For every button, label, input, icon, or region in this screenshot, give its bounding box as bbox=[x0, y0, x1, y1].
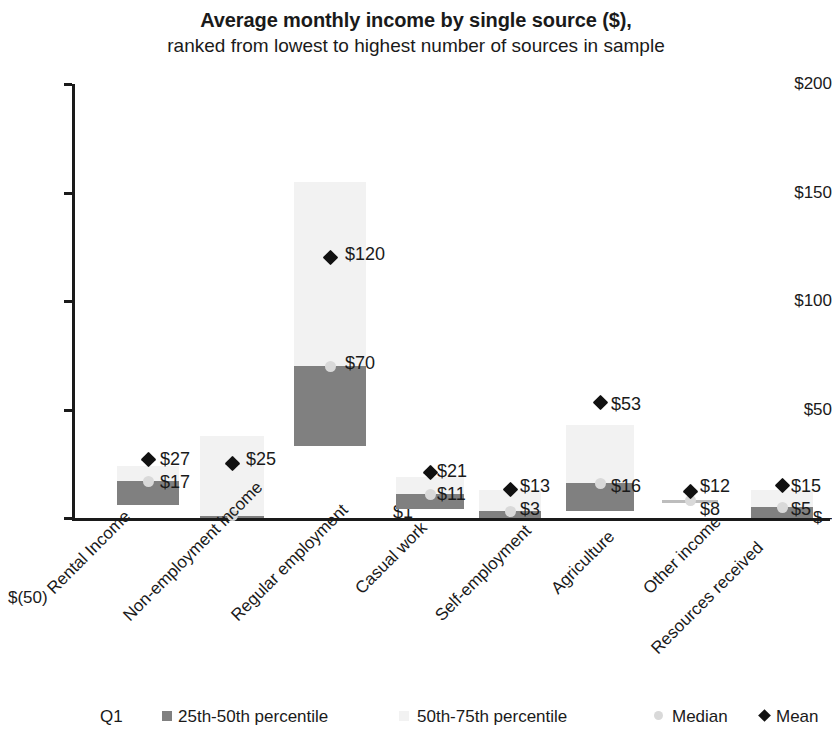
y-axis-tick bbox=[64, 192, 72, 195]
chart-root: Average monthly income by single source … bbox=[0, 0, 832, 731]
mean-value-label: $120 bbox=[345, 245, 385, 263]
legend-label-25th-50th-percentile: 25th-50th percentile bbox=[178, 708, 328, 725]
y-axis-tick bbox=[64, 300, 72, 303]
legend-swatch-square-dark bbox=[162, 711, 172, 721]
median-value-label: $70 bbox=[345, 354, 375, 372]
median-marker bbox=[595, 478, 606, 489]
bar-segment-50th-75th bbox=[566, 425, 634, 484]
median-marker bbox=[777, 502, 788, 513]
mean-marker bbox=[140, 452, 156, 468]
median-marker bbox=[505, 506, 516, 517]
median-value-label: $5 bbox=[791, 500, 811, 518]
median-value-label: $3 bbox=[520, 500, 540, 518]
x-axis-label-casual-work: Casual work bbox=[352, 519, 430, 597]
y-axis-tick bbox=[64, 83, 72, 86]
median-value-label: $16 bbox=[611, 477, 641, 495]
y-tick-label: $100 bbox=[770, 292, 832, 309]
legend-label-50th-75th-percentile: 50th-75th percentile bbox=[417, 708, 567, 725]
median-value-label: $17 bbox=[160, 473, 190, 491]
y-axis-tick bbox=[64, 517, 72, 520]
median-marker bbox=[325, 361, 336, 372]
chart-legend: Q125th-50th percentile50th-75th percenti… bbox=[0, 703, 832, 731]
x-axis-label-self-employment: Self-employment bbox=[432, 522, 534, 624]
y-axis-line bbox=[72, 84, 75, 521]
mean-value-label: $12 bbox=[700, 477, 730, 495]
bar-segment-50th-75th bbox=[294, 182, 366, 366]
bar-segment-25th-50th bbox=[294, 366, 366, 446]
mean-value-label: $25 bbox=[246, 450, 276, 468]
y-tick-label: $150 bbox=[770, 184, 832, 201]
legend-swatch-circle-gray bbox=[654, 711, 663, 720]
y-tick-label: $200 bbox=[770, 75, 832, 92]
median-marker bbox=[143, 476, 154, 487]
median-value-label: $11 bbox=[437, 485, 466, 503]
plot-area: $200$150$100$50$–$(50) $27$17$25$1$120$7… bbox=[0, 0, 832, 731]
mean-value-label: $15 bbox=[791, 477, 821, 495]
legend-swatch-diamond-black bbox=[758, 709, 771, 722]
mean-marker bbox=[592, 395, 608, 411]
x-axis-label-agriculture: Agriculture bbox=[548, 528, 617, 597]
mean-value-label: $21 bbox=[437, 462, 467, 480]
mean-value-label: $13 bbox=[520, 477, 550, 495]
y-axis-tick bbox=[64, 409, 72, 412]
median-marker bbox=[425, 489, 436, 500]
legend-label-median: Median bbox=[672, 708, 728, 725]
legend-swatch-square-light bbox=[399, 711, 409, 721]
legend-label-q1: Q1 bbox=[100, 708, 123, 725]
mean-value-label: $53 bbox=[611, 395, 641, 413]
legend-label-mean: Mean bbox=[776, 708, 819, 725]
y-tick-label: $50 bbox=[770, 401, 832, 418]
mean-value-label: $27 bbox=[160, 450, 190, 468]
